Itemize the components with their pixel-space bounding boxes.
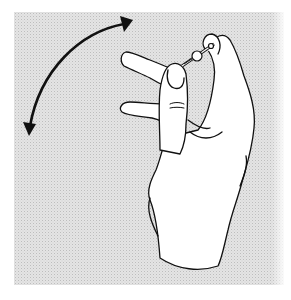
illustration bbox=[0, 0, 291, 300]
held-object-icon bbox=[182, 44, 214, 67]
rotation-arrow-icon bbox=[23, 16, 133, 136]
hand-drawing bbox=[120, 34, 254, 269]
figure-canvas: Line illustration of a hand holding a sm… bbox=[0, 0, 291, 300]
